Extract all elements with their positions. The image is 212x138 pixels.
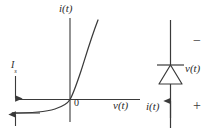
figure-canvas — [0, 0, 212, 138]
saturation-current-subscript: s — [14, 67, 17, 74]
saturation-current-label: Is — [11, 60, 17, 73]
diode-circuit — [157, 20, 184, 128]
negative-terminal-label: − — [193, 34, 201, 48]
diode-figure: i(t) v(t) 0 Is v(t) i(t) − + — [0, 0, 212, 138]
y-axis-label: i(t) — [59, 3, 72, 14]
diode-current-label: i(t) — [146, 101, 159, 112]
origin-label: 0 — [74, 98, 79, 108]
positive-terminal-label: + — [193, 99, 201, 113]
diode-anode-triangle — [159, 65, 182, 84]
x-axis-label: v(t) — [113, 100, 128, 111]
diode-voltage-label: v(t) — [185, 63, 200, 74]
